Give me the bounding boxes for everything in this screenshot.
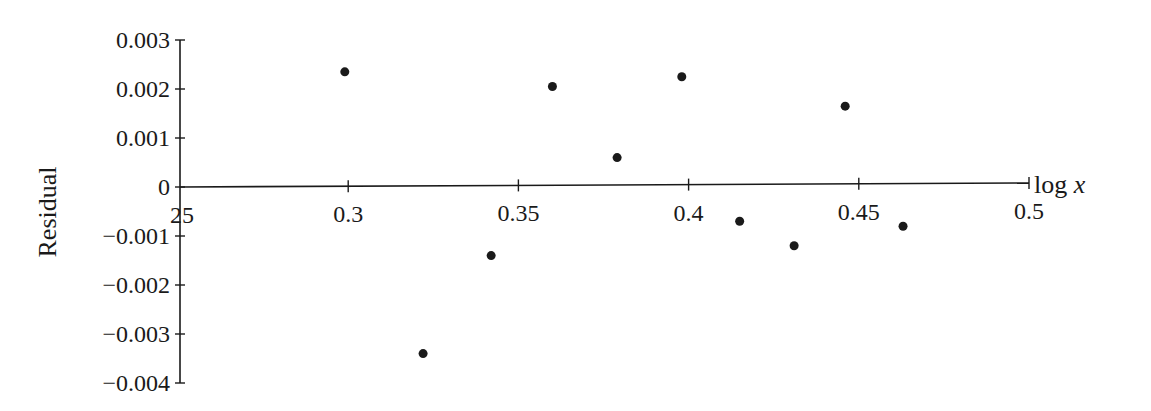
y-tick-label: −0.002 [102, 272, 170, 298]
data-point [487, 251, 496, 260]
x-axis: 250.30.350.40.450.5 [170, 177, 1044, 228]
x-axis-title-var: x [1073, 170, 1086, 199]
data-point [548, 82, 557, 91]
x-axis-title: log x [1034, 170, 1086, 199]
data-point [613, 153, 622, 162]
y-tick-label: 0.003 [116, 27, 170, 53]
residual-scatter-chart: 0.0030.0020.0010−0.001−0.002−0.003−0.004… [0, 0, 1151, 411]
x-tick-label: 25 [170, 202, 194, 228]
x-tick-label: 0.3 [333, 201, 363, 227]
x-axis-title-log: log [1034, 170, 1074, 199]
y-tick-label: 0.001 [116, 125, 170, 151]
x-tick-label: 0.4 [674, 200, 704, 226]
y-tick-label: −0.001 [102, 223, 170, 249]
data-points [340, 67, 907, 358]
data-point [899, 222, 908, 231]
x-tick-label: 0.35 [497, 200, 539, 226]
y-tick-label: −0.003 [102, 321, 170, 347]
y-axis-title: Residual [33, 167, 62, 258]
data-point [419, 349, 428, 358]
y-tick-label: 0 [158, 174, 170, 200]
data-point [677, 72, 686, 81]
data-point [841, 102, 850, 111]
x-tick-label: 0.45 [838, 199, 880, 225]
x-tick-label: 0.5 [1014, 198, 1044, 224]
data-point [340, 67, 349, 76]
data-point [735, 217, 744, 226]
data-point [790, 241, 799, 250]
y-tick-label: 0.002 [116, 76, 170, 102]
y-tick-label: −0.004 [102, 370, 170, 396]
